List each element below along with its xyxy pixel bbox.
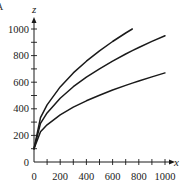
axis-ticks [31,29,165,165]
x-tick-label: 800 [131,171,147,182]
middle-curve [34,36,165,149]
corner-mark: A [0,1,4,12]
y-tick-label: 400 [13,103,29,114]
y-axis-arrow-icon [32,17,37,23]
y-tick-label: 200 [13,130,29,141]
y-axis-label: z [31,3,37,15]
y-tick-label: 1000 [8,24,29,35]
x-axis-label: x [173,156,179,168]
y-tick-label: 600 [13,77,29,88]
y-tick-label: 800 [13,50,29,61]
tick-labels: 0200400600800100002004006008001000 [8,24,176,183]
data-curves [34,29,165,149]
bottom-curve [34,73,165,149]
y-tick-label: 0 [24,157,29,168]
x-tick-label: 1000 [155,171,176,182]
x-tick-label: 0 [31,171,36,182]
x-tick-label: 400 [79,171,95,182]
line-chart: A 0200400600800100002004006008001000 x z [0,0,186,188]
x-tick-label: 200 [52,171,68,182]
x-tick-label: 600 [105,171,121,182]
axes [32,17,176,165]
